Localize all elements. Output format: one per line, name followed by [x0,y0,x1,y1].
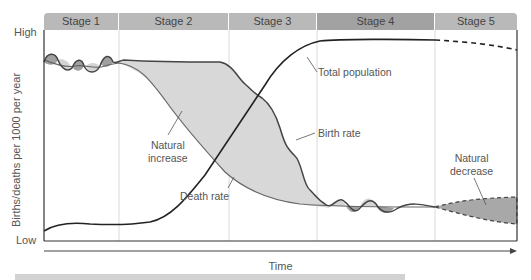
death-rate-label: Death rate [180,190,229,203]
x-axis-title: Time [0,260,531,272]
total-population-projection [435,40,517,50]
y-axis-high-label: High [14,26,37,38]
total-population-label: Total population [318,66,392,79]
y-axis-title: Births/deaths per 1000 per year [10,73,22,227]
natural-decrease-label: Natural decrease [450,152,493,178]
natural-increase-area [116,61,330,208]
footer-bar [15,274,405,280]
stage1-fluctuations [44,54,113,71]
natural-decrease-area [435,197,517,224]
birth-rate-label: Birth rate [318,127,361,140]
y-axis-low-label: Low [16,234,36,246]
natural-increase-label: Natural increase [148,139,188,165]
arrowhead-icon [510,248,517,254]
